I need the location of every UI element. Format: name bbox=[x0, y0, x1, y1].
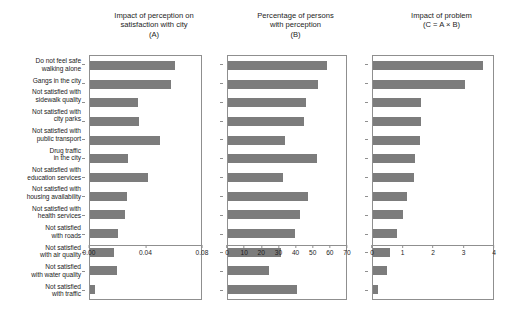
category-label: Not satisfied with city parks bbox=[0, 108, 81, 123]
bar bbox=[373, 229, 397, 238]
category-axis-labels: Do not feel safe walking aloneGangs in t… bbox=[0, 55, 85, 300]
y-tick bbox=[82, 266, 85, 277]
y-tick bbox=[365, 229, 368, 240]
bar bbox=[228, 136, 285, 145]
bar-row bbox=[373, 153, 493, 164]
y-tick bbox=[220, 78, 223, 89]
bar bbox=[228, 117, 304, 126]
bar-row bbox=[228, 228, 346, 239]
x-tick: 20 bbox=[258, 245, 265, 257]
panel-b: Percentage of persons with perception (B… bbox=[223, 0, 368, 326]
y-tick bbox=[82, 285, 85, 296]
x-tick-label: 0 bbox=[225, 249, 229, 257]
x-tick: 0.08 bbox=[196, 245, 209, 257]
bar bbox=[373, 192, 407, 201]
bar bbox=[90, 98, 138, 107]
x-tick: 1 bbox=[401, 245, 405, 257]
bar bbox=[90, 210, 125, 219]
bar bbox=[90, 192, 127, 201]
category-label: Not satisfied with public transport bbox=[0, 127, 81, 142]
y-tick bbox=[220, 115, 223, 126]
bar-row bbox=[228, 172, 346, 183]
y-tick bbox=[365, 59, 368, 70]
y-tick bbox=[365, 247, 368, 258]
bar-row bbox=[228, 209, 346, 220]
bar bbox=[373, 117, 421, 126]
bar-row bbox=[90, 116, 201, 127]
bar-row bbox=[228, 60, 346, 71]
x-tick-label: 10 bbox=[240, 249, 247, 257]
y-tick bbox=[220, 247, 223, 258]
bar bbox=[228, 192, 308, 201]
panel-a-title: Impact of perception on satisfaction wit… bbox=[85, 0, 223, 55]
bar-row bbox=[90, 172, 201, 183]
y-tick bbox=[220, 266, 223, 277]
y-tick bbox=[82, 134, 85, 145]
panel-b-x-axis: 010203040506070 bbox=[227, 245, 347, 271]
category-label: Gangs in the city bbox=[0, 77, 81, 85]
bar-row bbox=[228, 116, 346, 127]
y-tick bbox=[220, 191, 223, 202]
y-tick bbox=[82, 115, 85, 126]
y-tick bbox=[220, 210, 223, 221]
category-label: Not satisfied with roads bbox=[0, 224, 81, 239]
category-label: Do not feel safe walking alone bbox=[0, 57, 81, 72]
figure-root: Do not feel safe walking aloneGangs in t… bbox=[0, 0, 515, 326]
y-tick bbox=[365, 266, 368, 277]
y-tick bbox=[365, 115, 368, 126]
bar bbox=[90, 229, 118, 238]
x-tick: 2 bbox=[431, 245, 435, 257]
panel-b-title: Percentage of persons with perception (B… bbox=[223, 0, 368, 55]
y-tick bbox=[220, 59, 223, 70]
panel-a-y-ticks bbox=[82, 55, 85, 300]
x-tick-label: 0.08 bbox=[196, 249, 209, 257]
x-tick: 0 bbox=[225, 245, 229, 257]
bar bbox=[228, 98, 306, 107]
bar-row bbox=[228, 284, 346, 295]
y-tick bbox=[82, 191, 85, 202]
bar-row bbox=[90, 135, 201, 146]
y-tick bbox=[82, 97, 85, 108]
y-tick bbox=[82, 229, 85, 240]
y-tick bbox=[220, 97, 223, 108]
category-label: Not satisfied with air quality bbox=[0, 244, 81, 259]
x-tick: 0 bbox=[370, 245, 374, 257]
x-tick-label: 50 bbox=[309, 249, 316, 257]
y-tick bbox=[365, 97, 368, 108]
x-tick: 30 bbox=[275, 245, 282, 257]
x-tick: 0.00 bbox=[83, 245, 96, 257]
x-tick: 60 bbox=[326, 245, 333, 257]
bar-row bbox=[373, 284, 493, 295]
bar bbox=[90, 61, 175, 70]
category-label: Not satisfied with health services bbox=[0, 205, 81, 220]
bar bbox=[373, 98, 421, 107]
bar-row bbox=[90, 97, 201, 108]
panel-a: Impact of perception on satisfaction wit… bbox=[85, 0, 223, 326]
bar bbox=[373, 285, 378, 294]
x-tick-label: 30 bbox=[275, 249, 282, 257]
bar-row bbox=[90, 284, 201, 295]
y-tick bbox=[220, 229, 223, 240]
y-tick bbox=[365, 78, 368, 89]
bar-row bbox=[373, 79, 493, 90]
bar bbox=[228, 173, 283, 182]
bar-row bbox=[373, 116, 493, 127]
y-tick bbox=[82, 153, 85, 164]
bar-row bbox=[373, 60, 493, 71]
panel-c-title: Impact of problem (C = A × B) bbox=[368, 0, 515, 55]
y-tick bbox=[220, 153, 223, 164]
bar bbox=[228, 61, 327, 70]
x-tick: 40 bbox=[292, 245, 299, 257]
x-tick-label: 40 bbox=[292, 249, 299, 257]
y-tick bbox=[220, 285, 223, 296]
bar bbox=[90, 136, 160, 145]
x-tick: 3 bbox=[462, 245, 466, 257]
bar-row bbox=[228, 79, 346, 90]
x-tick-label: 3 bbox=[462, 249, 466, 257]
y-tick bbox=[220, 172, 223, 183]
bar-row bbox=[373, 135, 493, 146]
panel-c-y-ticks bbox=[365, 55, 368, 300]
category-label: Not satisfied with education services bbox=[0, 166, 81, 181]
bar-row bbox=[228, 153, 346, 164]
panel-c: Impact of problem (C = A × B) 01234 bbox=[368, 0, 515, 326]
